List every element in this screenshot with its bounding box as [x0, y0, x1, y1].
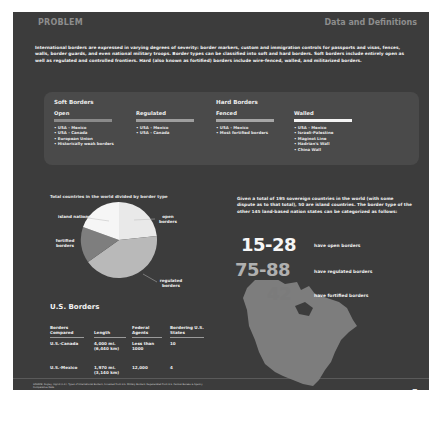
table-cell: 1,970 mi. (3,140 km): [94, 365, 126, 376]
source-citation: SOURCE: Rogley, Ingrid (n.d.). Types of …: [33, 383, 203, 389]
column-header: Borders Compared: [50, 325, 82, 336]
slide: PROBLEM Data and Definitions Internation…: [13, 12, 429, 390]
table-cell: U.S.-Canada: [50, 341, 78, 346]
table-cell: 12,000: [132, 365, 148, 370]
table-cell: 4,000 mi. (6,440 km): [94, 341, 126, 352]
column-header: Federal Agents: [132, 325, 160, 336]
table-cell: U.S.-Mexico: [50, 365, 77, 370]
page-number: 5: [412, 388, 418, 390]
stat-value-regulated: 75-88: [235, 259, 290, 280]
table-cell: 10: [170, 341, 176, 346]
stat-label-regulated: have regulated borders: [314, 269, 372, 274]
column-header: Bordering U.S. States: [170, 325, 206, 336]
stat-value-fortified: 42: [267, 283, 291, 304]
column-header: Length: [94, 330, 110, 335]
given-paragraph: Given a total of 195 sovereign countries…: [237, 196, 412, 215]
table-cell: 4: [170, 365, 173, 370]
stat-label-open: have open borders: [314, 243, 360, 248]
stat-value-open: 15-28: [241, 234, 296, 255]
stat-label-fortified: have fortified borders: [314, 293, 368, 298]
us-borders-title: U.S. Borders: [50, 303, 99, 311]
table-cell: Less than 1000: [132, 341, 162, 352]
